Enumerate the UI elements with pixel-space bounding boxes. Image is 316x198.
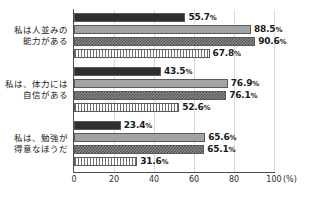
percent-sign: % [185,68,192,76]
bar-group-2: 23.4%65.6%65.1%31.6% [74,121,274,169]
bar-row: 88.5% [74,25,274,34]
bar-value-label: 65.6% [208,132,236,142]
percent-sign: % [230,134,237,142]
percent-sign: % [229,146,236,154]
bar-row: 67.8% [74,49,274,58]
x-tick-40: 40 [142,175,166,184]
bar-2-3[interactable] [74,157,137,166]
bar-0-3[interactable] [74,49,210,58]
category-label-2: 私は、勉強が 得意なほうだ [0,133,68,155]
bar-0-0[interactable] [74,13,185,22]
x-axis-line [73,172,275,173]
gridline-100 [274,10,275,172]
x-tick-20: 20 [102,175,126,184]
bar-value-label: 76.9% [231,78,259,88]
bar-0-2[interactable] [74,37,255,46]
plot-area: 55.7%88.5%90.6%67.8%43.5%76.9%76.1%52.6%… [74,10,274,172]
bar-value-label: 43.5% [164,66,192,76]
x-axis-unit-label: (%) [283,175,297,184]
bar-value-number: 43.5 [164,66,185,76]
bar-0-1[interactable] [74,25,251,34]
percent-sign: % [204,104,211,112]
percent-sign: % [145,122,152,130]
category-label-0: 私は人並みの 能力がある [0,25,68,47]
bar-value-number: 76.9 [231,78,252,88]
bar-value-label: 65.1% [207,144,235,154]
bar-1-0[interactable] [74,67,161,76]
category-label-1: 私は、体力には 自信がある [0,79,68,101]
bar-value-label: 67.8% [213,48,241,58]
percent-sign: % [210,14,217,22]
bar-group-0: 55.7%88.5%90.6%67.8% [74,13,274,61]
bar-value-label: 23.4% [124,120,152,130]
bar-value-number: 88.5 [254,24,275,34]
bar-row: 52.6% [74,103,274,112]
bar-value-label: 88.5% [254,24,282,34]
bar-row: 23.4% [74,121,274,130]
bar-value-number: 52.6 [182,102,203,112]
percent-sign: % [251,92,258,100]
bar-group-1: 43.5%76.9%76.1%52.6% [74,67,274,115]
bar-2-2[interactable] [74,145,204,154]
percent-sign: % [275,26,282,34]
bar-row: 65.6% [74,133,274,142]
bar-1-2[interactable] [74,91,226,100]
bar-row: 65.1% [74,145,274,154]
bar-value-label: 76.1% [229,90,257,100]
x-tick-60: 60 [182,175,206,184]
bar-value-label: 90.6% [258,36,286,46]
bar-value-number: 90.6 [258,36,279,46]
percent-sign: % [234,50,241,58]
bar-1-3[interactable] [74,103,179,112]
x-tick-0: 0 [62,175,86,184]
bar-value-number: 76.1 [229,90,250,100]
bar-2-1[interactable] [74,133,205,142]
bar-value-number: 55.7 [188,12,209,22]
percent-sign: % [252,80,259,88]
bar-value-number: 65.1 [207,144,228,154]
bar-row: 43.5% [74,67,274,76]
bar-2-0[interactable] [74,121,121,130]
bar-value-number: 65.6 [208,132,229,142]
bar-row: 76.1% [74,91,274,100]
bar-1-1[interactable] [74,79,228,88]
percent-sign: % [162,158,169,166]
bar-row: 55.7% [74,13,274,22]
bar-chart: 55.7%88.5%90.6%67.8%43.5%76.9%76.1%52.6%… [0,0,316,198]
bar-value-label: 52.6% [182,102,210,112]
bar-row: 90.6% [74,37,274,46]
percent-sign: % [280,38,287,46]
bar-value-number: 23.4 [124,120,145,130]
bar-row: 31.6% [74,157,274,166]
x-tick-80: 80 [222,175,246,184]
bar-value-number: 67.8 [213,48,234,58]
bar-row: 76.9% [74,79,274,88]
bar-value-number: 31.6 [140,156,161,166]
bar-value-label: 31.6% [140,156,168,166]
bar-value-label: 55.7% [188,12,216,22]
